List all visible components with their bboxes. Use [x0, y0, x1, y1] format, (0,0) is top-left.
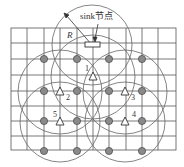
radius-label: R: [67, 31, 73, 40]
sensor-1-label: 1: [85, 65, 89, 73]
sensor-4-label: 4: [132, 111, 136, 119]
sink-pointer: [93, 24, 98, 42]
sensor-1-triangle: [89, 72, 97, 80]
sink-node: [85, 42, 100, 47]
sensor-2-label: 2: [66, 94, 70, 102]
coverage-circles: [18, 5, 167, 162]
sink-label: sink节点: [80, 12, 113, 21]
network-diagram: [0, 0, 184, 167]
sensor-5-label: 5: [53, 111, 57, 119]
sensor-3-label: 3: [131, 94, 135, 102]
